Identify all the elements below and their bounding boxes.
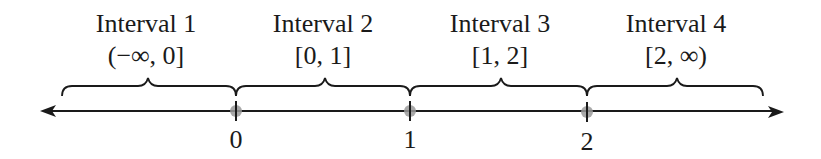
tick-label-0: 0 xyxy=(230,126,243,154)
interval-2-name: Interval 2 xyxy=(273,10,373,38)
tick-label-1: 1 xyxy=(404,126,417,154)
brace-interval-1 xyxy=(62,78,236,96)
interval-2-notation: [0, 1] xyxy=(295,42,351,70)
brace-interval-2 xyxy=(236,78,410,96)
interval-1-name: Interval 1 xyxy=(96,10,196,38)
interval-4-notation: [2, ∞) xyxy=(645,42,707,70)
interval-3-name: Interval 3 xyxy=(450,10,550,38)
interval-3-notation: [1, 2] xyxy=(472,42,528,70)
tick-label-2: 2 xyxy=(581,128,594,156)
interval-1-notation: (−∞, 0] xyxy=(108,42,185,70)
brace-interval-3 xyxy=(410,78,587,96)
point-2 xyxy=(581,102,593,122)
brace-interval-4 xyxy=(587,78,763,96)
interval-4-name: Interval 4 xyxy=(626,10,726,38)
point-1 xyxy=(404,101,416,121)
point-0 xyxy=(230,101,242,121)
